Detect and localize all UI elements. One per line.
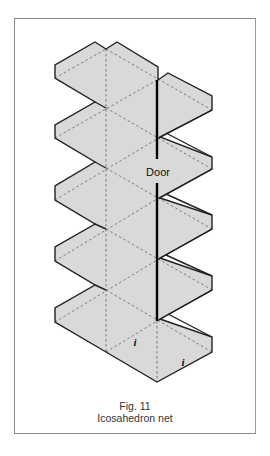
figure-number: Fig. 11 <box>14 400 256 412</box>
figure-title: Icosahedron net <box>14 412 256 424</box>
icosahedron-net-diagram: Door i i <box>0 0 270 456</box>
door-label: Door <box>146 166 170 178</box>
